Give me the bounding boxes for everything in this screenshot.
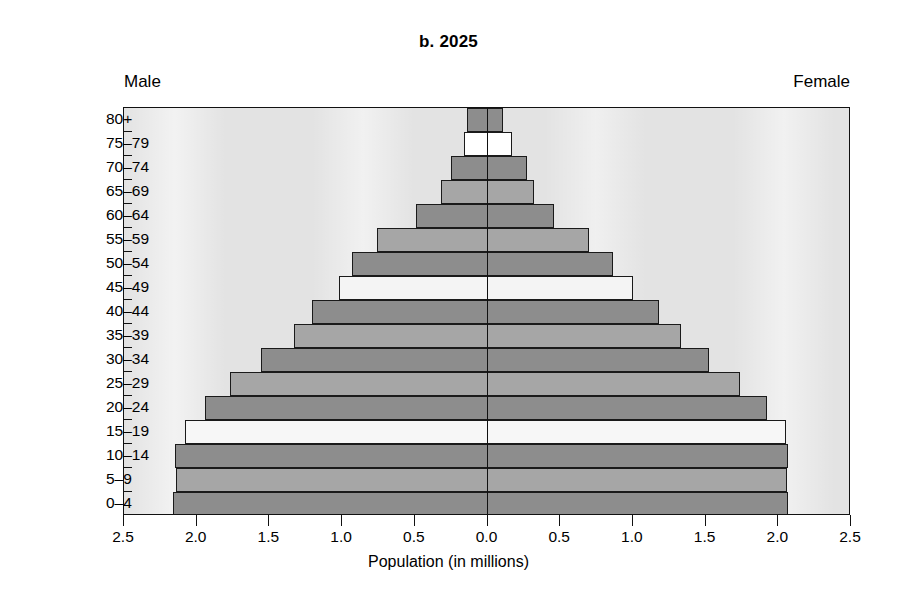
bar-female-30-34 [488,348,709,372]
bar-male-40-44 [312,300,488,324]
y-axis-tick [123,371,132,372]
bar-male-75-79 [464,132,487,156]
bar-female-15-19 [488,420,786,444]
bar-male-50-54 [352,252,487,276]
bar-male-45-49 [339,276,487,300]
bar-male-25-29 [230,372,487,396]
bar-female-45-49 [488,276,633,300]
bar-male-80+ [467,108,487,132]
y-axis-tick [123,227,132,228]
y-axis-tick [123,299,132,300]
x-axis-tick [123,515,124,526]
bar-female-50-54 [488,252,613,276]
y-axis-labels: 80+75–7970–7465–6960–6455–5950–5445–4940… [0,0,114,595]
y-axis-tick [123,203,132,204]
x-axis-tick [196,515,197,526]
x-axis-tick [341,515,342,526]
x-axis-tick [487,515,488,526]
y-axis-tick [123,323,132,324]
y-axis-tick [123,179,132,180]
female-group-label: Female [793,72,850,92]
y-axis-tick [123,491,132,492]
zero-axis-line [487,108,489,514]
x-axis-tick-label: 1.5 [258,528,280,546]
y-axis-tick [123,467,132,468]
y-axis-tick [123,443,132,444]
x-axis-tick-label: 1.0 [330,528,352,546]
bar-female-10-14 [488,444,789,468]
y-axis-tick [123,131,132,132]
bar-male-5-9 [176,468,487,492]
bar-female-60-64 [488,204,555,228]
y-axis-tick [123,395,132,396]
bar-male-30-34 [261,348,488,372]
bar-male-15-19 [185,420,487,444]
bar-female-20-24 [488,396,767,420]
bar-female-80+ [488,108,504,132]
bar-female-65-69 [488,180,535,204]
x-axis-tick [705,515,706,526]
bar-male-60-64 [416,204,487,228]
x-axis-tick [777,515,778,526]
bar-female-25-29 [488,372,741,396]
x-axis-tick [850,515,851,526]
x-axis-tick [268,515,269,526]
bar-female-75-79 [488,132,513,156]
bar-female-40-44 [488,300,660,324]
x-axis-tick-label: 0.0 [476,528,498,546]
chart-title: b. 2025 [0,32,897,52]
y-axis-tick [123,155,132,156]
x-axis-tick [632,515,633,526]
x-axis-tick-label: 2.0 [185,528,207,546]
x-axis-tick-label: 1.0 [621,528,643,546]
x-axis-tick [559,515,560,526]
bar-male-35-39 [294,324,487,348]
x-axis-tick-label: 2.5 [839,528,861,546]
bar-female-55-59 [488,228,590,252]
x-axis-tick-label: 0.5 [403,528,425,546]
bar-male-10-14 [175,444,488,468]
bar-male-55-59 [377,228,488,252]
bar-male-0-4 [173,492,487,515]
y-axis-tick [123,275,132,276]
bar-female-5-9 [488,468,788,492]
x-axis-tick-label: 1.5 [694,528,716,546]
y-axis-tick [123,419,132,420]
bar-male-65-69 [441,180,488,204]
population-pyramid-figure: b. 2025 Male Female 80+75–7970–7465–6960… [0,0,897,595]
bar-male-20-24 [205,396,487,420]
bar-male-70-74 [451,156,487,180]
x-axis-tick-label: 2.0 [767,528,789,546]
bar-female-35-39 [488,324,681,348]
y-axis-tick [123,347,132,348]
bar-female-70-74 [488,156,527,180]
male-group-label: Male [124,72,161,92]
x-axis-tick [414,515,415,526]
x-axis-title: Population (in millions) [0,553,897,571]
plot-area [123,107,850,515]
x-axis-tick-label: 0.5 [548,528,570,546]
bar-female-0-4 [488,492,789,515]
y-axis-tick [123,251,132,252]
x-axis-tick-label: 2.5 [112,528,134,546]
